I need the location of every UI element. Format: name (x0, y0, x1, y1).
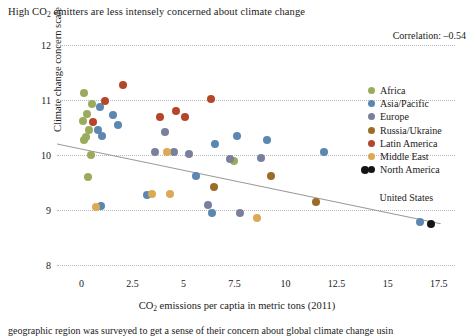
data-point (109, 111, 117, 119)
x-tick-5: 5 (181, 278, 186, 289)
chart-title-suffix: emitters are less intensely concerned ab… (51, 6, 305, 17)
legend-item-north-america[interactable]: North America (368, 163, 442, 176)
x-tick-0: 0 (79, 278, 84, 289)
data-point (163, 148, 171, 156)
data-point (210, 183, 218, 191)
legend-swatch-icon (368, 87, 375, 94)
data-point (148, 190, 156, 198)
legend-swatch-icon (368, 127, 375, 134)
data-point (80, 89, 88, 97)
page-caption-text: geographic region was surveyed to get a … (8, 325, 466, 336)
data-point (207, 95, 215, 103)
data-point (233, 132, 241, 140)
data-point (427, 220, 435, 228)
data-point (192, 172, 200, 180)
data-point (263, 136, 271, 144)
data-point (181, 113, 189, 121)
legend-swatch-icon (368, 153, 375, 160)
data-point (114, 121, 122, 129)
x-axis-tick-labels: 02.557.51012.51517.5 (0, 278, 474, 294)
data-point (83, 110, 91, 118)
data-point (92, 203, 100, 211)
x-axis-label-prefix: CO (139, 300, 154, 311)
chart-title-subscript: 2 (47, 10, 51, 19)
data-point (257, 154, 265, 162)
data-point (151, 148, 159, 156)
legend-item-latin-america[interactable]: Latin America (368, 137, 442, 150)
data-point (172, 107, 180, 115)
legend-item-russia-ukraine[interactable]: Russia/Ukraine (368, 124, 442, 137)
data-point (94, 126, 102, 134)
legend-swatch-icon (368, 113, 375, 120)
data-point (88, 100, 96, 108)
data-point (80, 136, 88, 144)
legend-item-africa[interactable]: Africa (368, 84, 442, 97)
data-point (89, 118, 97, 126)
data-point (208, 209, 216, 217)
data-point (211, 140, 219, 148)
y-tick-12: 12 (41, 40, 51, 51)
data-point (87, 151, 95, 159)
data-point (312, 198, 320, 206)
data-point (253, 214, 261, 222)
data-point (204, 201, 212, 209)
legend-item-middle-east[interactable]: Middle East (368, 150, 442, 163)
legend-item-label: Russia/Ukraine (380, 124, 442, 137)
y-tick-8: 8 (46, 260, 51, 271)
legend: AfricaAsia/PacificEuropeRussia/UkraineLa… (368, 84, 442, 176)
data-point (79, 117, 87, 125)
legend-item-label: North America (380, 163, 440, 176)
data-point (267, 172, 275, 180)
y-tick-9: 9 (46, 205, 51, 216)
annotation-united-states: United States (379, 192, 433, 203)
legend-swatch-icon (368, 100, 375, 107)
x-axis-label-suffix: emissions per captia in metric tons (201… (157, 300, 335, 311)
data-point (119, 81, 127, 89)
chart-title-prefix: High CO (8, 6, 47, 17)
x-tick-17.5: 17.5 (430, 278, 448, 289)
data-point (416, 218, 424, 226)
y-tick-11: 11 (41, 95, 51, 106)
legend-item-label: Latin America (380, 137, 437, 150)
x-tick-2.5: 2.5 (126, 278, 139, 289)
data-point (84, 173, 92, 181)
data-point (236, 209, 244, 217)
correlation-label: Correlation: –0.54 (393, 30, 466, 41)
x-axis-label: CO2 emissions per captia in metric tons … (0, 300, 474, 311)
legend-item-label: Africa (380, 84, 406, 97)
data-point (161, 128, 169, 136)
legend-item-label: Europe (380, 110, 409, 123)
legend-swatch-icon (368, 166, 375, 173)
x-axis-label-subscript: 2 (153, 304, 157, 313)
data-point (166, 190, 174, 198)
x-tick-7.5: 7.5 (228, 278, 241, 289)
legend-item-label: Asia/Pacific (380, 97, 429, 110)
data-point (226, 155, 234, 163)
legend-swatch-icon (368, 140, 375, 147)
legend-item-asia-pacific[interactable]: Asia/Pacific (368, 97, 442, 110)
legend-item-europe[interactable]: Europe (368, 110, 442, 123)
data-point (320, 148, 328, 156)
data-point (156, 113, 164, 121)
x-tick-15: 15 (383, 278, 393, 289)
data-point (170, 148, 178, 156)
x-tick-10: 10 (281, 278, 291, 289)
x-tick-12.5: 12.5 (328, 278, 346, 289)
y-tick-10: 10 (41, 150, 51, 161)
legend-item-label: Middle East (380, 150, 429, 163)
data-point (185, 150, 193, 158)
gridline-y-8 (57, 265, 455, 266)
y-axis-tick-labels: 89101112 (22, 45, 51, 265)
data-point (101, 97, 109, 105)
